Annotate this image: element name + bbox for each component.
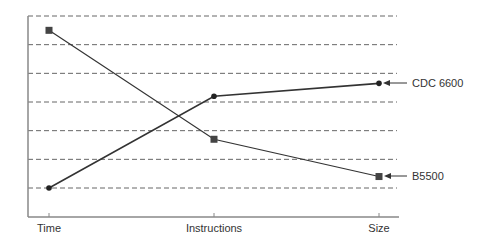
x-tick-label: Time: [37, 222, 61, 234]
circle-marker: [46, 185, 52, 191]
arrow-icon: [383, 80, 390, 86]
square-marker: [211, 136, 218, 143]
series-lines: [46, 27, 383, 191]
x-tick-label: Instructions: [186, 222, 243, 234]
line-chart: TimeInstructionsSize CDC 6600 B5500: [0, 0, 483, 247]
x-tick-label: Size: [368, 222, 389, 234]
circle-marker: [211, 93, 217, 99]
gridlines: [28, 16, 397, 188]
square-marker: [46, 27, 53, 34]
annotation-b5500: B5500: [384, 170, 444, 182]
arrow-icon: [384, 173, 391, 179]
label-b5500: B5500: [412, 170, 444, 182]
x-ticks: TimeInstructionsSize: [37, 213, 390, 234]
annotation-cdc: CDC 6600: [383, 77, 463, 89]
series-line: [49, 30, 379, 176]
label-cdc-6600: CDC 6600: [412, 77, 463, 89]
square-marker: [376, 173, 383, 180]
circle-marker: [376, 81, 382, 87]
